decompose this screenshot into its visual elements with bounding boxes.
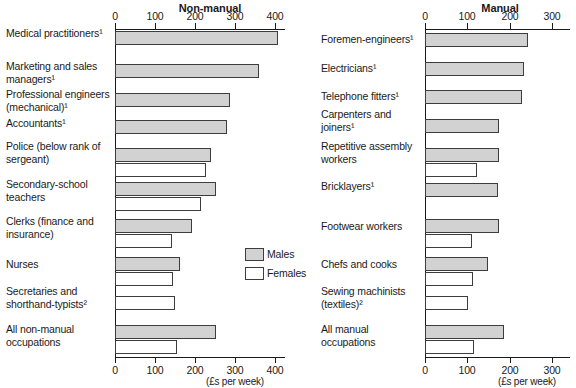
top-tick-label-300-right: 300 <box>537 10 567 22</box>
bottom-tick-400-left <box>275 357 276 363</box>
bar-female-police <box>115 163 206 177</box>
category-label-bricklayers: Bricklayers¹ <box>321 180 425 193</box>
category-label-all-non-manual: All non-manual occupations <box>6 323 114 349</box>
category-label-marketing-and-sales-managers: Marketing and sales managers¹ <box>6 60 114 86</box>
bar-male-repetitive-assembly-workers <box>425 148 499 162</box>
bar-male-footwear-workers <box>425 219 499 233</box>
top-tick-label-400-left: 400 <box>260 10 290 22</box>
bar-male-all-manual <box>425 325 504 339</box>
bar-male-all-non-manual <box>115 325 216 339</box>
bar-female-secondary-school-teachers <box>115 197 201 211</box>
bar-female-nurses <box>115 272 173 286</box>
category-label-chefs-and-cooks: Chefs and cooks <box>321 258 425 271</box>
category-label-professional-engineers: Professional engineers (mechanical)¹ <box>6 88 114 114</box>
top-tick-300-left <box>235 23 236 29</box>
bottom-tick-label-0-left: 0 <box>100 364 130 376</box>
bar-male-clerks <box>115 219 192 233</box>
top-tick-300-right <box>552 23 553 29</box>
bottom-tick-0-left <box>115 357 116 363</box>
top-tick-200-right <box>510 23 511 29</box>
bar-male-electricians <box>425 62 524 76</box>
bottom-tick-label-0-right: 0 <box>410 364 440 376</box>
bottom-tick-label-400-left: 400 <box>260 364 290 376</box>
bar-male-nurses <box>115 257 180 271</box>
unit-label-right: (£s per week) <box>498 376 556 387</box>
category-label-medical-practitioners: Medical practitioners¹ <box>6 27 114 40</box>
category-label-foremen-engineers: Foremen-engineers¹ <box>321 33 425 46</box>
bar-male-medical-practitioners <box>115 31 278 45</box>
bar-female-secretaries <box>115 296 175 310</box>
category-label-carpenters-and-joiners: Carpenters and joiners¹ <box>321 108 425 134</box>
bar-male-professional-engineers <box>115 93 230 107</box>
top-axis-line-right <box>425 29 570 30</box>
bar-male-bricklayers <box>425 183 498 197</box>
bar-female-clerks <box>115 234 172 248</box>
bar-female-sewing-machinists <box>425 296 468 310</box>
panel-non-manual: Non-manual 0 100 200 300 400 0 100 200 3… <box>0 0 290 388</box>
top-tick-label-100-right: 100 <box>452 10 482 22</box>
bottom-tick-label-300-left: 300 <box>220 364 250 376</box>
bottom-tick-label-100-left: 100 <box>140 364 170 376</box>
bottom-tick-0-right <box>425 357 426 363</box>
top-axis-line-left <box>115 29 285 30</box>
bottom-tick-100-right <box>467 357 468 363</box>
bar-male-foremen-engineers <box>425 33 528 47</box>
top-tick-400-left <box>275 23 276 29</box>
bar-female-all-manual <box>425 340 474 354</box>
category-label-telephone-fitters: Telephone fitters¹ <box>321 90 425 103</box>
bottom-tick-label-300-right: 300 <box>537 364 567 376</box>
bottom-tick-label-200-left: 200 <box>180 364 210 376</box>
bar-male-police <box>115 148 211 162</box>
top-tick-200-left <box>195 23 196 29</box>
bottom-tick-label-200-right: 200 <box>495 364 525 376</box>
top-tick-label-200-right: 200 <box>495 10 525 22</box>
legend-swatch-females-icon <box>245 267 264 280</box>
top-tick-label-200-left: 200 <box>180 10 210 22</box>
bar-male-carpenters-and-joiners <box>425 119 499 133</box>
category-label-clerks: Clerks (finance and insurance) <box>6 215 114 241</box>
bar-male-marketing-and-sales-managers <box>115 64 259 78</box>
category-label-police: Police (below rank of sergeant) <box>6 140 114 166</box>
category-label-sewing-machinists: Sewing machinists (textiles)² <box>321 285 425 311</box>
legend-swatch-males-icon <box>245 248 264 261</box>
top-tick-100-left <box>155 23 156 29</box>
category-label-secretaries: Secretaries and shorthand-typists² <box>6 285 114 311</box>
bar-female-chefs-and-cooks <box>425 272 473 286</box>
category-label-repetitive-assembly-workers: Repetitive assembly workers <box>321 140 425 166</box>
bar-female-footwear-workers <box>425 234 472 248</box>
bar-male-secondary-school-teachers <box>115 182 216 196</box>
category-label-nurses: Nurses <box>6 258 114 271</box>
bottom-tick-300-left <box>235 357 236 363</box>
category-label-footwear-workers: Footwear workers <box>321 220 425 233</box>
unit-label-left: (£s per week) <box>206 376 264 387</box>
bottom-tick-200-left <box>195 357 196 363</box>
bar-female-repetitive-assembly-workers <box>425 163 477 177</box>
bar-male-telephone-fitters <box>425 90 522 104</box>
category-label-accountants: Accountants¹ <box>6 117 114 130</box>
bottom-tick-label-100-right: 100 <box>452 364 482 376</box>
category-label-secondary-school-teachers: Secondary-school teachers <box>6 178 114 204</box>
bar-male-accountants <box>115 120 227 134</box>
bottom-axis-line-right <box>425 357 570 358</box>
bottom-axis-line-left <box>115 357 285 358</box>
category-label-electricians: Electricians¹ <box>321 62 425 75</box>
bottom-tick-100-left <box>155 357 156 363</box>
top-tick-label-0-left: 0 <box>100 10 130 22</box>
category-label-all-manual: All manual occupations <box>321 323 425 349</box>
top-tick-label-100-left: 100 <box>140 10 170 22</box>
bottom-tick-300-right <box>552 357 553 363</box>
bar-male-chefs-and-cooks <box>425 257 488 271</box>
bar-female-all-non-manual <box>115 340 177 354</box>
bottom-tick-200-right <box>510 357 511 363</box>
panel-manual: Manual 0 100 200 300 0 100 200 300 (£s p… <box>290 0 576 388</box>
chart-figure: Non-manual 0 100 200 300 400 0 100 200 3… <box>0 0 576 388</box>
top-tick-label-300-left: 300 <box>220 10 250 22</box>
top-tick-100-right <box>467 23 468 29</box>
top-tick-label-0-right: 0 <box>410 10 440 22</box>
